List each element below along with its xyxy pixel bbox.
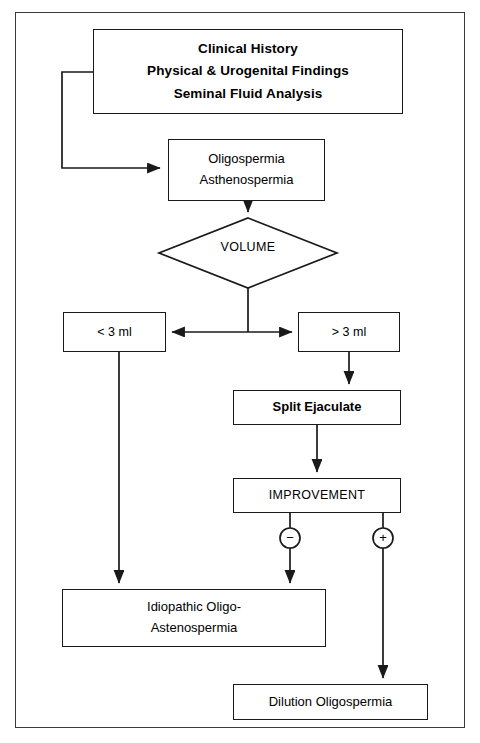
node-volume-greater-than-3ml: > 3 ml	[298, 312, 400, 352]
plus-sign-label: +	[373, 528, 393, 548]
improvement-label: IMPROVEMENT	[234, 486, 400, 504]
node-improvement: IMPROVEMENT	[233, 478, 401, 513]
idiopathic-line-2: Astenospermia	[151, 620, 238, 635]
idiopathic-line-1: Idiopathic Oligo-	[147, 599, 241, 614]
header-line-1: Clinical History	[198, 41, 298, 56]
gt3-label: > 3 ml	[299, 323, 399, 341]
node-oligospermia: Oligospermia Asthenospermia	[168, 139, 325, 201]
node-split-ejaculate: Split Ejaculate	[233, 390, 401, 425]
split-label: Split Ejaculate	[234, 398, 400, 417]
node-volume-label: VOLUME	[158, 240, 338, 254]
node-volume-less-than-3ml: < 3 ml	[63, 312, 166, 352]
node-dilution-oligospermia: Dilution Oligospermia	[233, 684, 428, 720]
lt3-label: < 3 ml	[64, 323, 165, 341]
oligo-line-1: Oligospermia	[208, 151, 285, 166]
node-idiopathic-oligo-astenospermia: Idiopathic Oligo- Astenospermia	[62, 589, 326, 647]
flowchart-page: Clinical History Physical & Urogenital F…	[0, 0, 480, 743]
dilution-label: Dilution Oligospermia	[234, 693, 427, 712]
minus-sign-label: −	[280, 528, 300, 548]
oligo-line-2: Asthenospermia	[200, 172, 294, 187]
header-line-2: Physical & Urogenital Findings	[147, 63, 349, 78]
header-line-3: Seminal Fluid Analysis	[174, 86, 323, 101]
node-clinical-history: Clinical History Physical & Urogenital F…	[93, 29, 403, 114]
